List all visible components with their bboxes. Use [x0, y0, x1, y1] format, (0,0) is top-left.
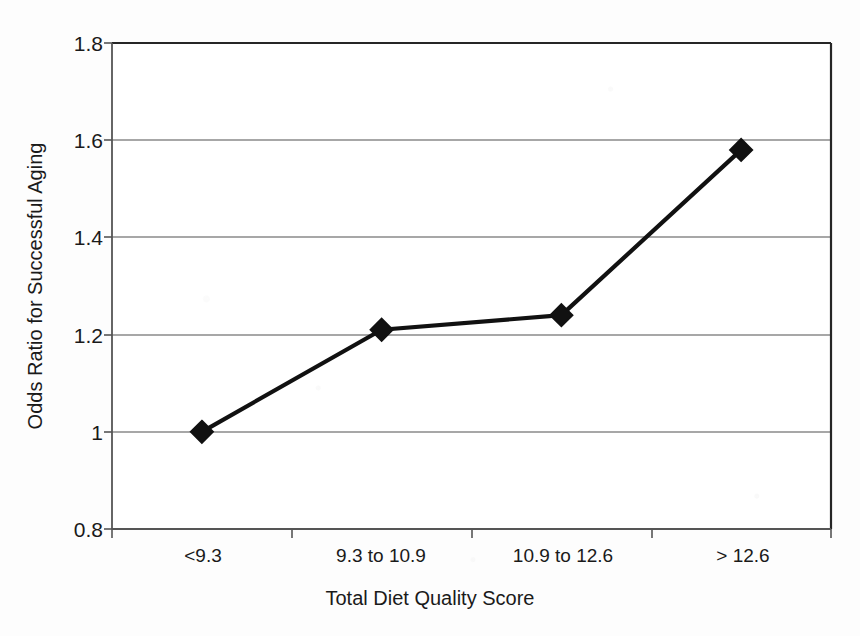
- plot-background: [112, 43, 831, 529]
- y-tick-label-0.8: 0.8: [74, 518, 103, 541]
- y-tick-label-1.8: 1.8: [74, 32, 103, 55]
- y-tick-label-1.0: 1: [91, 421, 103, 444]
- x-category-label-3: > 12.6: [716, 545, 769, 566]
- x-axis-ticks: [112, 529, 831, 538]
- chart-figure: 1.8 1.6 1.4 1.2 1 0.8 <9.3 9.3 to 10.9 1…: [0, 0, 860, 636]
- y-tick-label-1.4: 1.4: [74, 226, 104, 249]
- y-tick-label-1.2: 1.2: [74, 324, 103, 347]
- y-tick-label-1.6: 1.6: [74, 129, 103, 152]
- x-category-label-1: 9.3 to 10.9: [336, 545, 426, 566]
- y-axis-title: Odds Ratio for Successful Aging: [24, 143, 46, 430]
- line-chart: 1.8 1.6 1.4 1.2 1 0.8 <9.3 9.3 to 10.9 1…: [0, 0, 860, 636]
- x-axis-title: Total Diet Quality Score: [326, 587, 535, 609]
- x-category-label-0: <9.3: [184, 545, 222, 566]
- y-axis-ticks: [104, 43, 112, 529]
- x-category-label-2: 10.9 to 12.6: [513, 545, 613, 566]
